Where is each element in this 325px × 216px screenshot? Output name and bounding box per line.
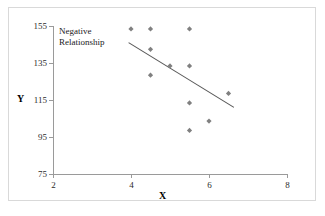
data-point	[187, 100, 192, 105]
data-point	[226, 91, 231, 96]
axes-group	[53, 26, 288, 175]
data-point	[148, 26, 153, 31]
data-point	[148, 47, 153, 52]
x-tick-label-6: 6	[199, 180, 220, 190]
y-tick-label-95: 95	[21, 132, 47, 142]
y-axis-title: Y	[17, 93, 24, 104]
x-tick-label-2: 2	[43, 180, 64, 190]
data-point	[187, 63, 192, 68]
data-point	[206, 119, 211, 124]
y-tick-label-155: 155	[21, 21, 47, 31]
data-point	[187, 26, 192, 31]
y-tick-label-135: 135	[21, 58, 47, 68]
scatter-plot-figure: 155 135 115 95 75 2 4 6 8 Y X Negative R…	[0, 0, 325, 216]
data-point	[128, 26, 133, 31]
data-point	[148, 73, 153, 78]
data-point-group	[128, 26, 231, 133]
y-tick-label-115: 115	[21, 95, 47, 105]
x-axis-title: X	[0, 190, 325, 201]
x-tick-label-8: 8	[277, 180, 298, 190]
x-tick-label-4: 4	[121, 180, 142, 190]
data-point	[187, 128, 192, 133]
negative-relationship-annotation: Negative Relationship	[59, 26, 105, 48]
y-tick-label-75: 75	[21, 169, 47, 179]
y-tick-marks	[49, 27, 53, 175]
data-point	[167, 63, 172, 68]
trend-line	[129, 43, 234, 108]
